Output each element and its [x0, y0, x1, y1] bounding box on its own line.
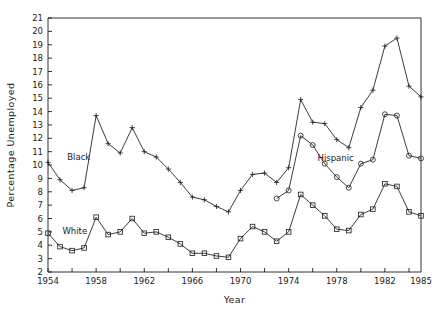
- data-point-black: [226, 209, 231, 214]
- series-line-white: [48, 184, 421, 258]
- x-tick-label: 1966: [182, 276, 204, 286]
- x-tick-label: 1954: [37, 276, 59, 286]
- y-tick-label: 20: [32, 26, 43, 36]
- x-tick-label: 1974: [278, 276, 300, 286]
- x-tick-label: 1985: [410, 276, 432, 286]
- y-tick-label: 17: [32, 67, 43, 77]
- data-point-black: [214, 204, 219, 209]
- x-tick-label: 1958: [85, 276, 107, 286]
- y-tick-label: 10: [32, 160, 43, 170]
- data-point-black: [346, 145, 351, 150]
- y-tick-label: 8: [38, 187, 43, 197]
- y-tick-label: 15: [32, 93, 43, 103]
- x-tick-label: 1982: [374, 276, 396, 286]
- y-tick-label: 11: [32, 147, 43, 157]
- y-tick-label: 18: [32, 53, 43, 63]
- y-tick-label: 19: [32, 40, 43, 50]
- data-point-black: [130, 125, 135, 130]
- series-label-hispanic: Hispanic: [318, 153, 355, 163]
- data-point-black: [142, 149, 147, 154]
- y-tick-label: 9: [38, 174, 43, 184]
- x-axis-title: Year: [223, 294, 246, 305]
- y-tick-label: 7: [38, 200, 43, 210]
- series-line-black: [48, 38, 421, 212]
- data-point-black: [358, 105, 363, 110]
- x-tick-label: 1978: [326, 276, 348, 286]
- y-tick-label: 12: [32, 133, 43, 143]
- data-point-black: [310, 120, 315, 125]
- data-point-black: [298, 97, 303, 102]
- series-label-black: Black: [67, 152, 90, 162]
- x-tick-label: 1962: [133, 276, 155, 286]
- data-point-black: [202, 197, 207, 202]
- series-label-white: White: [62, 226, 87, 236]
- plot-frame: [48, 18, 421, 272]
- y-tick-label: 16: [32, 80, 43, 90]
- y-tick-label: 14: [32, 107, 43, 117]
- y-tick-label: 6: [38, 214, 43, 224]
- x-tick-label: 1970: [230, 276, 252, 286]
- data-point-black: [94, 113, 99, 118]
- data-point-black: [394, 35, 399, 40]
- data-point-black: [382, 43, 387, 48]
- y-tick-label: 21: [32, 13, 43, 23]
- y-tick-label: 4: [38, 240, 43, 250]
- data-point-black: [45, 160, 50, 165]
- y-tick-label: 5: [38, 227, 43, 237]
- unemployment-line-chart: 2345678910111213141516171819202119541958…: [0, 0, 440, 316]
- y-tick-label: 13: [32, 120, 43, 130]
- chart-canvas: 2345678910111213141516171819202119541958…: [0, 0, 440, 316]
- y-tick-label: 3: [38, 254, 43, 264]
- data-point-black: [370, 88, 375, 93]
- y-axis-title: Percentage Unemployed: [5, 83, 16, 208]
- data-point-black: [81, 185, 86, 190]
